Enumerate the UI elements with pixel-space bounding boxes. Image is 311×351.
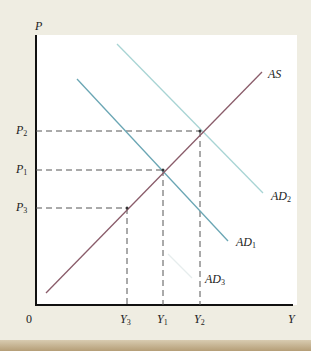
equilibrium-point-1 [162,169,165,172]
price-label-p2: P2 [16,124,27,138]
x-axis-label: Y [288,313,295,325]
price-label-p1: P1 [16,163,27,177]
ad1-label: AD1 [236,236,256,250]
ad2-curve [117,44,263,193]
output-label-y3: Y3 [120,313,131,327]
y-axis-label: P [35,20,42,32]
equilibrium-point-2 [199,130,202,133]
output-label-y1: Y1 [157,313,168,327]
ad-as-diagram [0,0,311,351]
as-label: AS [268,68,281,82]
ad2-label: AD2 [271,190,291,204]
ad3-curve [168,254,192,278]
ad1-curve [77,79,228,241]
output-label-y2: Y2 [194,313,205,327]
equilibrium-point-3 [126,207,129,210]
origin-label: 0 [26,313,32,325]
as-curve [46,72,262,293]
bottom-border-bar [0,340,311,351]
price-label-p3: P3 [16,201,27,215]
ad3-label: AD3 [205,273,225,287]
